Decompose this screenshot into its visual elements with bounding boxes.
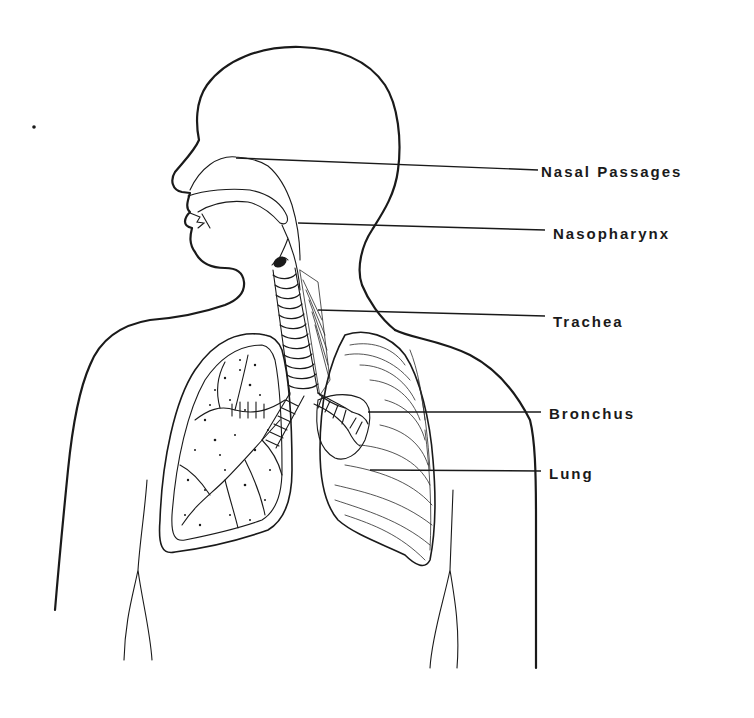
right-shoulder-outline bbox=[395, 330, 536, 668]
label-lung: Lung bbox=[549, 466, 594, 481]
left-arm-inner bbox=[124, 480, 152, 660]
label-nasal-passages: Nasal Passages bbox=[541, 164, 682, 179]
lips bbox=[190, 213, 210, 228]
head-outline bbox=[55, 47, 399, 610]
leader-lung bbox=[370, 470, 541, 471]
left-lung-cutaway bbox=[160, 334, 304, 553]
trachea-shape bbox=[271, 254, 330, 395]
nasal-cavity bbox=[190, 157, 300, 260]
label-trachea: Trachea bbox=[553, 314, 624, 329]
stray-dot bbox=[32, 125, 36, 129]
palate bbox=[188, 189, 287, 224]
leader-nasopharynx bbox=[298, 223, 545, 230]
leader-trachea bbox=[318, 310, 545, 316]
right-lung bbox=[314, 332, 435, 565]
label-bronchus: Bronchus bbox=[549, 406, 635, 421]
leader-nasal-passages bbox=[236, 158, 538, 170]
respiratory-system-diagram bbox=[0, 0, 754, 718]
label-nasopharynx: Nasopharynx bbox=[553, 226, 670, 241]
